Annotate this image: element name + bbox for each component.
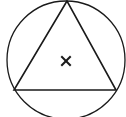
center-mark-icon: [62, 57, 70, 65]
inscribed-triangle-diagram: [0, 0, 126, 117]
circumscribed-circle: [7, 1, 125, 117]
